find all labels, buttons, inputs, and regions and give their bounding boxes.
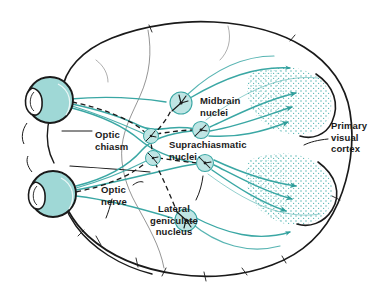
suprachiasmatic-nucleus-upper bbox=[144, 129, 159, 144]
label-optic-chiasm: Optic chiasm bbox=[95, 129, 128, 152]
label-optic-nerve: Optic nerve bbox=[101, 184, 127, 207]
label-primary-visual-cortex: Primary visual cortex bbox=[331, 120, 367, 155]
label-suprachiasmatic-nuclei: Suprachiasmatic nuclei bbox=[169, 139, 247, 162]
lateral-geniculate-nucleus-upper bbox=[193, 122, 210, 139]
label-midbrain-nuclei: Midbrain nuclei bbox=[200, 95, 240, 118]
label-lateral-geniculate-nucleus: Lateral geniculate nucleus bbox=[138, 203, 210, 238]
retinal-projection-diagram: Midbrain nuclei Optic chiasm Suprachiasm… bbox=[0, 0, 382, 297]
midbrain-nucleus-upper bbox=[170, 92, 192, 114]
suprachiasmatic-nucleus-lower bbox=[146, 151, 161, 166]
eye-lower bbox=[27, 156, 76, 217]
